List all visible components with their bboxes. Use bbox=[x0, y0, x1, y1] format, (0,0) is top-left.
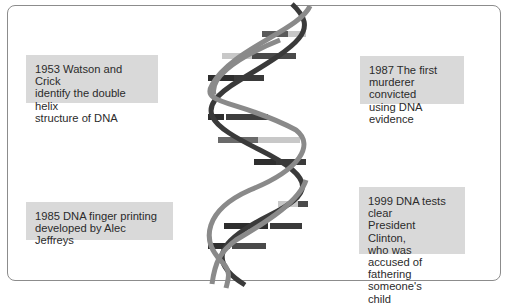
timeline-event-1953: 1953 Watson and Crick identify the doubl… bbox=[26, 55, 158, 103]
event-line: identify the double helix bbox=[35, 87, 148, 111]
timeline-event-1987: 1987 The first murderer convicted using … bbox=[360, 56, 464, 104]
event-line: 1987 The first bbox=[369, 64, 454, 76]
event-line: fathering someone's bbox=[368, 268, 455, 292]
event-line: 1953 Watson and Crick bbox=[35, 63, 148, 87]
event-line: child bbox=[368, 293, 455, 305]
event-line: 1999 DNA tests clear bbox=[368, 195, 455, 219]
event-line: using DNA evidence bbox=[369, 101, 454, 125]
timeline-event-1999: 1999 DNA tests clear President Clinton, … bbox=[359, 187, 465, 254]
event-line: President Clinton, bbox=[368, 219, 455, 243]
event-line: who was accused of bbox=[368, 244, 455, 268]
event-line: 1985 DNA finger printing bbox=[35, 210, 163, 222]
event-line: murderer convicted bbox=[369, 76, 454, 100]
timeline-event-1985: 1985 DNA finger printing developed by Al… bbox=[26, 202, 173, 240]
event-line: developed by Alec Jeffreys bbox=[35, 222, 163, 246]
event-line: structure of DNA bbox=[35, 112, 148, 124]
base-pairs bbox=[208, 31, 308, 249]
